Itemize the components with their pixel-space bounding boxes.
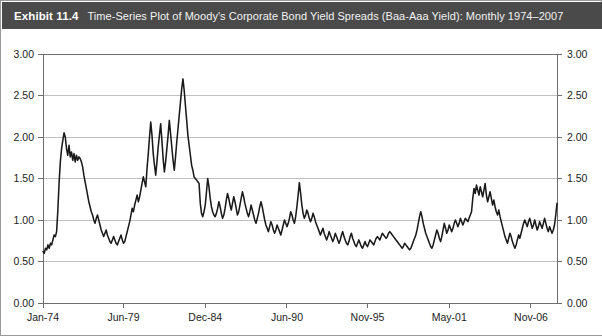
x-axis-tick-label: Dec-84 xyxy=(188,311,222,323)
y-axis-tick-label-right: 1.00 xyxy=(567,214,588,226)
series-line-baa-aaa-spread xyxy=(43,79,557,253)
tick-marks-group xyxy=(38,54,562,308)
y-axis-tick-label-left: 3.00 xyxy=(14,48,35,60)
y-axis-tick-label-left: 0.00 xyxy=(14,297,35,309)
exhibit-caption-bar: Exhibit 11.4 Time-Series Plot of Moody's… xyxy=(2,2,602,29)
y-axis-tick-label-right: 1.50 xyxy=(567,172,588,184)
y-axis-tick-label-left: 1.50 xyxy=(14,172,35,184)
y-axis-labels-left: 0.000.501.001.502.002.503.00 xyxy=(14,48,35,309)
x-axis-tick-label: Jun-79 xyxy=(107,311,139,323)
x-axis-tick-label: May-01 xyxy=(432,311,467,323)
y-axis-labels-right: 0.000.501.001.502.002.503.00 xyxy=(567,48,588,309)
y-axis-tick-label-left: 2.50 xyxy=(14,89,35,101)
x-axis-tick-label: Nov-06 xyxy=(514,311,548,323)
y-axis-tick-label-left: 0.50 xyxy=(14,255,35,267)
x-axis-tick-label: Jun-90 xyxy=(271,311,303,323)
x-axis-labels: Jan-74Jun-79Dec-84Jun-90Nov-95May-01Nov-… xyxy=(27,311,548,323)
exhibit-title-text: Time-Series Plot of Moody's Corporate Bo… xyxy=(87,10,563,22)
y-axis-tick-label-right: 3.00 xyxy=(567,48,588,60)
y-axis-tick-label-right: 2.00 xyxy=(567,131,588,143)
x-axis-tick-label: Nov-95 xyxy=(351,311,385,323)
y-axis-tick-label-right: 2.50 xyxy=(567,89,588,101)
time-series-chart: 0.000.501.001.502.002.503.00 0.000.501.0… xyxy=(2,29,602,335)
exhibit-figure: Exhibit 11.4 Time-Series Plot of Moody's… xyxy=(0,0,602,336)
x-axis-tick-label: Jan-74 xyxy=(27,311,59,323)
chart-plot-area: 0.000.501.001.502.002.503.00 0.000.501.0… xyxy=(2,29,602,335)
y-axis-tick-label-left: 2.00 xyxy=(14,131,35,143)
y-axis-tick-label-right: 0.00 xyxy=(567,297,588,309)
y-axis-tick-label-left: 1.00 xyxy=(14,214,35,226)
exhibit-number-label: Exhibit 11.4 xyxy=(14,10,78,22)
y-axis-tick-label-right: 0.50 xyxy=(567,255,588,267)
